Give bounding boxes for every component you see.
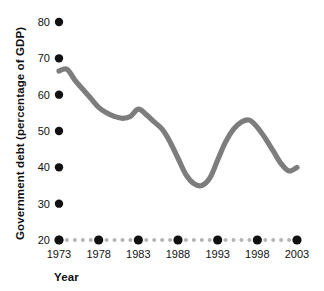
line-chart-svg: Government debt (percentage of GDP) 2030…	[0, 0, 324, 291]
x-axis-minor-dot	[152, 238, 156, 242]
y-axis-tick-dot	[55, 199, 63, 207]
x-axis-tick-label: 1978	[86, 248, 110, 260]
x-axis-minor-dot	[144, 238, 148, 242]
x-axis-minor-dot	[239, 238, 243, 242]
x-axis-major-dot	[54, 235, 63, 244]
y-axis-tick-dot	[55, 54, 63, 62]
x-axis-major-dot	[213, 235, 222, 244]
x-axis-minor-dot	[232, 238, 236, 242]
x-axis-minor-dot	[208, 238, 212, 242]
y-axis-tick-label: 30	[38, 198, 50, 210]
x-axis-minor-dot	[168, 238, 172, 242]
x-axis-minor-dot	[120, 238, 124, 242]
x-axis-minor-dot	[128, 238, 132, 242]
x-axis-tick-label-group: 1973197819831988199319982003	[47, 248, 309, 260]
x-axis-minor-dot	[105, 238, 109, 242]
x-axis-minor-dot	[224, 238, 228, 242]
x-axis-minor-dot	[184, 238, 188, 242]
y-axis-tick-label: 40	[38, 161, 50, 173]
x-axis-minor-dot	[73, 238, 77, 242]
y-axis-tick-label: 20	[38, 234, 50, 246]
x-axis-tick-label: 1998	[245, 248, 269, 260]
x-axis-minor-dot	[65, 238, 69, 242]
y-axis-tick-group: 20304050607080	[38, 16, 63, 246]
x-axis-major-dot	[134, 235, 143, 244]
x-axis-minor-dot	[200, 238, 204, 242]
chart-container: Government debt (percentage of GDP) 2030…	[0, 0, 324, 291]
x-axis-title: Year	[54, 271, 79, 283]
x-axis-minor-dot	[247, 238, 251, 242]
x-axis-tick-label: 2003	[285, 248, 309, 260]
x-axis-tick-label: 1993	[205, 248, 229, 260]
y-axis-tick-label: 80	[38, 16, 50, 28]
y-axis-tick-label: 70	[38, 52, 50, 64]
x-axis-minor-dot	[81, 238, 85, 242]
y-axis-tick-dot	[55, 127, 63, 135]
x-axis-minor-dot	[263, 238, 267, 242]
x-axis-major-dot	[173, 235, 182, 244]
y-axis-tick-dot	[55, 18, 63, 26]
x-axis-minor-dot	[160, 238, 164, 242]
x-axis-tick-label: 1988	[166, 248, 190, 260]
x-axis-minor-dot	[113, 238, 117, 242]
y-axis-tick-dot	[55, 90, 63, 98]
x-axis-minor-dot	[192, 238, 196, 242]
debt-series-line	[59, 69, 297, 186]
x-axis-minor-dot	[287, 238, 291, 242]
x-axis-major-dot	[94, 235, 103, 244]
y-axis-tick-label: 60	[38, 89, 50, 101]
y-axis-title-group: Government debt (percentage of GDP)	[14, 27, 26, 240]
x-axis-major-dot	[253, 235, 262, 244]
y-axis-title: Government debt (percentage of GDP)	[14, 27, 26, 240]
x-axis-major-dot	[292, 235, 301, 244]
y-axis-tick-dot	[55, 163, 63, 171]
x-axis-minor-dot	[89, 238, 93, 242]
x-axis-tick-label: 1973	[47, 248, 71, 260]
x-axis-tick-label: 1983	[126, 248, 150, 260]
y-axis-tick-label: 50	[38, 125, 50, 137]
x-axis-minor-dot	[271, 238, 275, 242]
x-axis-minor-dot	[279, 238, 283, 242]
